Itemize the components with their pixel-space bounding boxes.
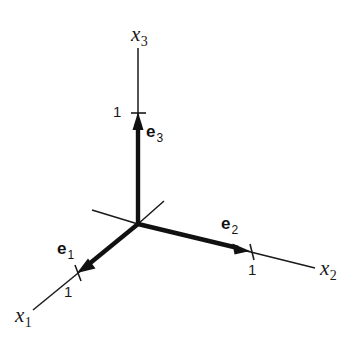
axis-label-x1-text: x xyxy=(15,303,24,327)
vector-label-e1-subscript: 1 xyxy=(66,248,74,262)
axes-diagram xyxy=(0,0,359,343)
vector-shaft-e1 xyxy=(89,224,138,264)
axis-label-x1: x1 xyxy=(15,305,32,330)
axis-line-x1-negative xyxy=(138,201,164,224)
axis-lines xyxy=(33,48,315,310)
tick-mark-x1 xyxy=(75,265,81,281)
tick-label-x3: 1 xyxy=(113,104,121,119)
axis-label-x3-subscript: 3 xyxy=(140,34,148,49)
basis-vector-arrows xyxy=(77,112,250,273)
axis-label-x2-text: x xyxy=(320,256,329,280)
vector-label-e3-subscript: 3 xyxy=(155,131,163,145)
tick-label-x2: 1 xyxy=(248,262,256,277)
vector-label-e2: e2 xyxy=(221,215,238,236)
vector-label-e2-subscript: 2 xyxy=(230,223,238,237)
axis-label-x2-subscript: 2 xyxy=(329,268,337,283)
vector-label-e3: e3 xyxy=(146,123,163,144)
vector-head-e3 xyxy=(133,112,144,130)
tick-label-x1: 1 xyxy=(64,284,72,299)
axis-label-x1-subscript: 1 xyxy=(24,315,32,330)
axis-line-x2-negative xyxy=(92,210,138,224)
axis-label-x3-text: x xyxy=(131,22,140,46)
vector-label-e1: e1 xyxy=(57,240,74,261)
basis-vector-figure: x3 x2 x1 e3 e2 e1 1 1 1 xyxy=(0,0,359,343)
vector-head-e2 xyxy=(233,244,251,255)
axis-label-x3: x3 xyxy=(131,24,148,49)
axis-label-x2: x2 xyxy=(320,258,337,283)
